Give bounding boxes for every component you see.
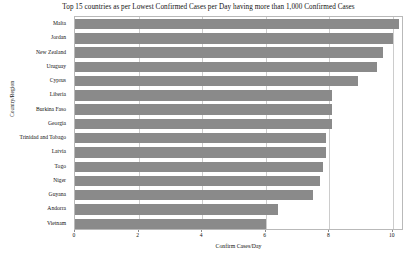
y-axis-label-new-zealand: New Zealand <box>36 45 66 59</box>
x-tick-label-6: 6 <box>263 232 266 238</box>
y-axis-label-liberia: Liberia <box>50 87 66 101</box>
y-axis-label-guyana: Guyana <box>49 187 66 201</box>
y-axis-label-andorra: Andorra <box>47 201 66 215</box>
bar <box>75 119 332 129</box>
bar <box>75 190 313 200</box>
bar <box>75 90 332 100</box>
y-axis-label-georgia: Georgia <box>48 116 66 130</box>
bar <box>75 162 323 172</box>
bar <box>75 133 326 143</box>
y-axis-label-togo: Togo <box>55 159 66 173</box>
x-axis-tick-labels: 0246810 <box>74 230 403 242</box>
chart-figure: Top 15 countries as per Lowest Confirmed… <box>0 0 417 256</box>
y-axis-label-jordan: Jordan <box>51 30 66 44</box>
bar <box>75 147 326 157</box>
chart-title: Top 15 countries as per Lowest Confirmed… <box>0 2 417 12</box>
x-axis-title: Confirm Cases/Day <box>74 243 403 249</box>
y-axis-label-trinidad-and-tobago: Trinidad and Tobago <box>19 130 66 144</box>
bar-series <box>75 17 402 229</box>
bar <box>75 33 393 43</box>
bar <box>75 47 383 57</box>
bar <box>75 204 278 214</box>
bar <box>75 176 320 186</box>
bar <box>75 62 377 72</box>
y-axis-tick-labels: MaltaJordanNew ZealandUruguayCyprusLiber… <box>0 16 70 230</box>
x-tick-label-10: 10 <box>389 232 395 238</box>
x-tick-label-8: 8 <box>327 232 330 238</box>
y-axis-label-vietnam: Vietnam <box>47 216 66 230</box>
bar <box>75 219 266 229</box>
bar <box>75 19 399 29</box>
y-axis-label-latvia: Latvia <box>52 144 66 158</box>
x-tick-label-4: 4 <box>200 232 203 238</box>
y-axis-label-uruguay: Uruguay <box>46 59 66 73</box>
bar <box>75 76 358 86</box>
y-axis-label-burkina-faso: Burkina Faso <box>36 102 66 116</box>
x-tick-label-2: 2 <box>136 232 139 238</box>
bar <box>75 104 332 114</box>
y-axis-label-niger: Niger <box>53 173 66 187</box>
y-axis-label-cyprus: Cyprus <box>50 73 66 87</box>
y-axis-label-malta: Malta <box>53 16 66 30</box>
plot-area <box>74 16 403 230</box>
x-tick-label-0: 0 <box>73 232 76 238</box>
